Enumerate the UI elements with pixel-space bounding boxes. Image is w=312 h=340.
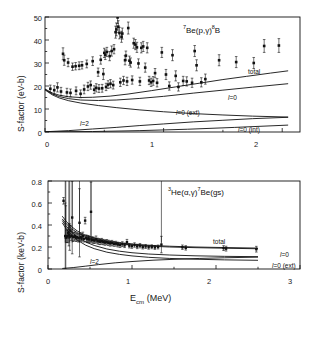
data-point — [84, 219, 86, 221]
data-point — [131, 79, 134, 82]
data-point — [102, 73, 105, 76]
data-point — [119, 81, 122, 84]
data-point — [119, 244, 121, 246]
data-point — [139, 244, 141, 246]
panel-top-be7-p-gamma-b8: S-factor (eV-b) 50 40 30 20 10 0 0 1 2 7… — [0, 0, 312, 165]
data-point — [109, 82, 112, 85]
data-point — [126, 241, 128, 243]
data-point — [112, 84, 115, 87]
data-point — [142, 45, 145, 48]
data-point — [121, 243, 123, 245]
top-panel-plot — [0, 0, 312, 165]
data-point — [168, 85, 171, 88]
data-point — [98, 87, 101, 90]
data-point — [144, 66, 147, 69]
curve-total — [62, 216, 258, 248]
data-point — [151, 246, 153, 248]
data-point — [136, 245, 138, 247]
data-point — [122, 79, 125, 82]
data-point — [104, 53, 107, 56]
data-point — [125, 54, 128, 57]
data-point — [278, 44, 281, 47]
curve-l=2 — [62, 257, 258, 268]
data-point — [107, 83, 110, 86]
data-series — [49, 11, 280, 97]
data-point — [160, 243, 162, 245]
data-point — [156, 81, 159, 84]
data-point — [81, 64, 84, 67]
data-point — [127, 27, 130, 30]
data-point — [200, 81, 203, 84]
data-point — [171, 54, 174, 57]
curve-l=0 (int) — [45, 125, 288, 132]
data-point — [165, 73, 168, 76]
data-point — [78, 222, 80, 224]
panel-bottom-he3-alpha-gamma-be7: S-factor (keV-b) 0.8 0.6 0.4 0.2 0 0 1 2… — [0, 165, 312, 340]
data-point — [157, 246, 159, 248]
data-point — [255, 248, 257, 250]
data-point — [75, 90, 78, 93]
data-point — [161, 51, 164, 54]
data-point — [142, 246, 144, 248]
data-point — [88, 238, 90, 240]
data-point — [222, 247, 224, 249]
data-point — [67, 61, 70, 64]
data-point — [225, 247, 227, 249]
data-point — [91, 60, 94, 63]
data-point — [99, 58, 102, 61]
data-point — [126, 80, 129, 83]
data-point — [191, 81, 194, 84]
data-point — [106, 51, 109, 54]
data-point — [97, 71, 100, 74]
data-point — [121, 32, 124, 35]
data-point — [118, 32, 121, 35]
data-point — [144, 245, 146, 247]
data-point — [62, 200, 64, 202]
data-point — [129, 61, 132, 64]
data-point — [117, 243, 119, 245]
data-point — [115, 28, 118, 31]
figure-container: S-factor (eV-b) 50 40 30 20 10 0 0 1 2 7… — [0, 0, 312, 340]
data-point — [182, 80, 185, 83]
data-point — [252, 62, 255, 65]
bottom-panel-plot — [0, 165, 312, 340]
data-point — [177, 86, 180, 89]
data-point — [195, 64, 198, 67]
data-point — [101, 87, 104, 90]
data-point — [133, 244, 135, 246]
data-point — [154, 246, 156, 248]
data-point — [139, 80, 142, 83]
data-point — [204, 78, 207, 81]
data-point — [62, 53, 65, 56]
plot-frame — [48, 181, 300, 269]
data-point — [71, 65, 74, 68]
data-point — [60, 90, 63, 93]
data-point — [95, 87, 98, 90]
data-point — [110, 50, 113, 53]
data-point — [83, 238, 85, 240]
data-point — [193, 50, 196, 53]
data-point — [146, 47, 149, 50]
data-point — [49, 87, 52, 90]
data-point — [87, 85, 90, 88]
data-point — [56, 86, 59, 89]
data-point — [185, 80, 188, 83]
data-point — [53, 89, 56, 92]
data-point — [174, 75, 177, 78]
data-point — [218, 59, 221, 62]
data-point — [137, 62, 140, 65]
data-point — [105, 86, 108, 89]
data-point — [181, 246, 183, 248]
data-point — [113, 48, 116, 51]
data-point — [136, 46, 139, 49]
data-point — [131, 245, 133, 247]
data-point — [185, 247, 187, 249]
data-point — [147, 246, 149, 248]
data-point — [63, 59, 66, 62]
data-point — [152, 80, 155, 83]
data-point — [128, 244, 130, 246]
data-point — [154, 72, 157, 75]
data-point — [85, 63, 88, 66]
data-point — [89, 84, 92, 87]
data-point — [74, 65, 77, 68]
